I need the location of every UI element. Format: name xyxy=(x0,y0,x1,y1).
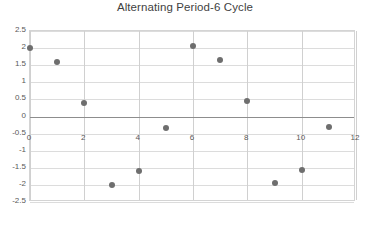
gridline-horizontal xyxy=(30,202,354,203)
data-point xyxy=(81,100,87,106)
x-axis-tick-label: 12 xyxy=(343,133,367,142)
x-axis-tick-label: 4 xyxy=(126,133,150,142)
data-point xyxy=(272,180,278,186)
gridline-horizontal xyxy=(30,99,354,100)
data-point xyxy=(244,98,250,104)
y-axis-tick-label: 1.5 xyxy=(0,60,26,68)
gridline-vertical xyxy=(30,31,31,200)
x-axis-tick-label: 6 xyxy=(180,133,204,142)
gridline-horizontal xyxy=(30,185,354,186)
chart-figure: Alternating Period-6 Cycle 2.521.510.50-… xyxy=(0,0,370,228)
y-axis-tick-label: -1.5 xyxy=(0,163,26,171)
y-axis-tick-label: 2 xyxy=(0,43,26,51)
x-axis-tick-label: 10 xyxy=(289,133,313,142)
chart-title: Alternating Period-6 Cycle xyxy=(0,1,370,13)
x-axis-tick-labels: 024681012 xyxy=(29,133,355,144)
data-point xyxy=(326,124,332,130)
x-axis-tick-label: 8 xyxy=(234,133,258,142)
x-axis-tick-label: 2 xyxy=(71,133,95,142)
x-axis-tick-label: 0 xyxy=(17,133,41,142)
y-axis-tick-label: 0 xyxy=(0,112,26,120)
y-axis-tick-labels: 2.521.510.50-0.5-1-1.5-2-2.5 xyxy=(0,30,26,201)
data-point xyxy=(109,182,115,188)
data-point xyxy=(27,45,33,51)
gridline-horizontal xyxy=(30,82,354,83)
data-point xyxy=(299,167,305,173)
data-point xyxy=(54,59,60,65)
gridline-vertical xyxy=(247,31,248,200)
gridline-vertical xyxy=(193,31,194,200)
y-axis-tick-label: -1 xyxy=(0,146,26,154)
data-point xyxy=(136,168,142,174)
data-point xyxy=(217,57,223,63)
plot-area xyxy=(29,30,355,201)
data-point xyxy=(163,125,169,131)
gridline-vertical xyxy=(84,31,85,200)
zero-line xyxy=(30,117,354,118)
y-axis-tick-label: 2.5 xyxy=(0,26,26,34)
gridline-vertical xyxy=(356,31,357,200)
gridline-horizontal xyxy=(30,65,354,66)
gridline-vertical xyxy=(302,31,303,200)
gridline-horizontal xyxy=(30,168,354,169)
y-axis-tick-label: 0.5 xyxy=(0,94,26,102)
y-axis-tick-label: -2.5 xyxy=(0,197,26,205)
gridline-horizontal xyxy=(30,151,354,152)
y-axis-tick-label: 1 xyxy=(0,77,26,85)
gridline-vertical xyxy=(139,31,140,200)
gridline-horizontal xyxy=(30,31,354,32)
y-axis-tick-label: -2 xyxy=(0,180,26,188)
